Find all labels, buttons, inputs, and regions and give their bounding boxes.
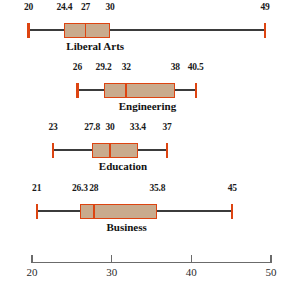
label-min: 26 xyxy=(73,62,82,72)
label-q1: 29.2 xyxy=(96,62,112,72)
cap-lower xyxy=(36,204,38,219)
cap-lower xyxy=(76,83,78,98)
median-line xyxy=(109,143,111,158)
label-q3: 38 xyxy=(171,62,180,72)
box-iqr xyxy=(64,23,110,38)
cap-lower xyxy=(52,143,54,158)
whisker-upper xyxy=(138,149,167,151)
boxplot-liberal-arts: 2024.4273049Liberal Arts xyxy=(0,2,286,60)
category-label: Business xyxy=(106,221,146,233)
label-q3: 33.4 xyxy=(130,122,146,132)
x-axis: 20304050 xyxy=(0,255,286,297)
whisker-lower xyxy=(37,210,80,212)
category-label: Education xyxy=(99,160,147,172)
label-median: 30 xyxy=(105,122,114,132)
category-label: Liberal Arts xyxy=(66,40,124,52)
box-iqr xyxy=(104,83,176,98)
axis-tick xyxy=(111,255,112,263)
whisker-lower xyxy=(53,149,92,151)
axis-tick xyxy=(270,255,271,263)
axis-tick xyxy=(31,255,32,263)
label-min: 21 xyxy=(32,183,41,193)
whisker-upper xyxy=(110,29,265,31)
label-min: 20 xyxy=(24,2,33,12)
boxplot-business: 2126.32835.845Business xyxy=(0,183,286,241)
label-median: 28 xyxy=(89,183,98,193)
whisker-lower xyxy=(77,89,103,91)
boxplot-education: 2327.83033.437Education xyxy=(0,122,286,180)
median-line xyxy=(85,23,87,38)
label-q1: 26.3 xyxy=(72,183,88,193)
label-q3: 35.8 xyxy=(149,183,165,193)
axis-tick-label: 30 xyxy=(106,266,117,278)
cap-upper xyxy=(166,143,168,158)
whisker-lower xyxy=(29,29,65,31)
box-iqr xyxy=(80,204,157,219)
whisker-upper xyxy=(157,210,232,212)
axis-line xyxy=(32,262,271,263)
axis-tick-label: 50 xyxy=(266,266,277,278)
cap-upper xyxy=(264,23,266,38)
median-line xyxy=(125,83,127,98)
axis-tick-label: 40 xyxy=(186,266,197,278)
box-iqr xyxy=(92,143,138,158)
category-label: Engineering xyxy=(119,100,176,112)
label-max: 40.5 xyxy=(188,62,204,72)
axis-tick xyxy=(191,255,192,263)
cap-upper xyxy=(231,204,233,219)
label-q1: 24.4 xyxy=(56,2,72,12)
boxplot-engineering: 2629.2323840.5Engineering xyxy=(0,62,286,120)
label-min: 23 xyxy=(48,122,57,132)
axis-tick-label: 20 xyxy=(27,266,38,278)
label-q1: 27.8 xyxy=(84,122,100,132)
label-max: 37 xyxy=(163,122,172,132)
cap-upper xyxy=(195,83,197,98)
median-line xyxy=(93,204,95,219)
label-max: 45 xyxy=(228,183,237,193)
label-median: 32 xyxy=(122,62,131,72)
label-max: 49 xyxy=(260,2,269,12)
cap-lower xyxy=(27,23,29,38)
label-q3: 30 xyxy=(105,2,114,12)
boxplot-chart: 2024.4273049Liberal Arts2629.2323840.5En… xyxy=(0,0,286,297)
whisker-upper xyxy=(175,89,195,91)
label-median: 27 xyxy=(81,2,90,12)
